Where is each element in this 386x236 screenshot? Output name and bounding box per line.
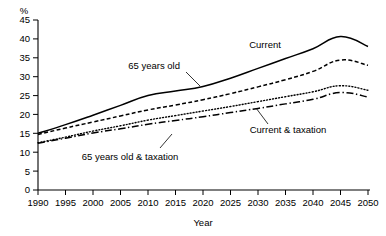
series-label-current-and-taxation: Current & taxation <box>250 124 327 135</box>
x-tick-label: 2020 <box>192 197 213 208</box>
x-tick-label: 2050 <box>357 197 378 208</box>
x-tick-label: 2040 <box>302 197 323 208</box>
x-axis-title: Year <box>193 217 212 228</box>
y-tick-label: 25 <box>19 90 30 101</box>
series-line-current <box>38 37 368 134</box>
x-tick-label: 2045 <box>330 197 351 208</box>
y-axis-ticks <box>33 20 38 190</box>
x-tick-label: 2000 <box>82 197 103 208</box>
x-tick-label: 1990 <box>27 197 48 208</box>
leader-line-65-years-old-and-taxation <box>160 134 172 148</box>
y-tick-label: 5 <box>25 166 30 177</box>
x-axis-tick-labels: 1990 1995 2000 2005 2010 2015 2020 2025 … <box>27 197 378 208</box>
y-tick-label: 30 <box>19 71 30 82</box>
y-tick-label: 10 <box>19 147 30 158</box>
y-axis-tick-labels: 0 5 10 15 20 25 30 35 40 45 <box>19 14 30 195</box>
x-tick-label: 2035 <box>275 197 296 208</box>
x-tick-label: 1995 <box>55 197 76 208</box>
x-axis-ticks <box>38 190 368 195</box>
series-label-current: Current <box>249 39 281 50</box>
y-tick-label: 45 <box>19 14 30 25</box>
x-tick-label: 2025 <box>220 197 241 208</box>
leader-line-current-and-taxation <box>256 108 268 124</box>
y-tick-label: 15 <box>19 128 30 139</box>
y-tick-label: 35 <box>19 52 30 63</box>
x-tick-label: 2010 <box>137 197 158 208</box>
chart-container: % 0 5 10 15 20 25 30 35 40 <box>0 0 386 236</box>
series-label-65-years-old-and-taxation: 65 years old & taxation <box>82 151 179 162</box>
x-tick-label: 2005 <box>110 197 131 208</box>
y-tick-label: 0 <box>25 184 30 195</box>
x-tick-label: 2015 <box>165 197 186 208</box>
x-tick-label: 2030 <box>247 197 268 208</box>
series-label-65-years-old: 65 years old <box>128 60 180 71</box>
line-chart: % 0 5 10 15 20 25 30 35 40 <box>0 0 386 236</box>
leader-line-65-years-old <box>186 72 200 86</box>
y-tick-label: 40 <box>19 33 30 44</box>
y-tick-label: 20 <box>19 109 30 120</box>
